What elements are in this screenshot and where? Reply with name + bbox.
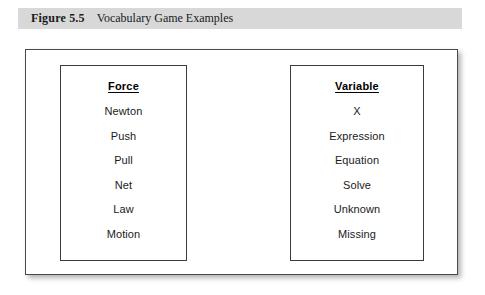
word-item: Push: [111, 130, 136, 142]
figure-caption-bar: Figure 5.5 Vocabulary Game Examples: [18, 8, 462, 29]
word-item: Missing: [338, 228, 376, 240]
word-item: Equation: [335, 154, 379, 166]
word-item: Motion: [107, 228, 141, 240]
word-item: Law: [113, 203, 133, 215]
word-item: Newton: [105, 105, 143, 117]
column-heading-force: Force: [108, 80, 139, 92]
word-item: Unknown: [334, 203, 381, 215]
vocabulary-column-force: Force Newton Push Pull Net Law Motion: [60, 65, 187, 261]
word-item: Solve: [343, 179, 371, 191]
word-item: Net: [115, 179, 132, 191]
figure-title-label: Vocabulary Game Examples: [97, 11, 233, 26]
word-item: Pull: [114, 154, 133, 166]
figure-frame: Force Newton Push Pull Net Law Motion Va…: [25, 49, 458, 275]
column-heading-variable: Variable: [335, 80, 379, 92]
word-item: Expression: [329, 130, 384, 142]
word-item: X: [353, 105, 360, 117]
vocabulary-column-variable: Variable X Expression Equation Solve Unk…: [290, 65, 424, 261]
figure-number-label: Figure 5.5: [31, 11, 85, 26]
